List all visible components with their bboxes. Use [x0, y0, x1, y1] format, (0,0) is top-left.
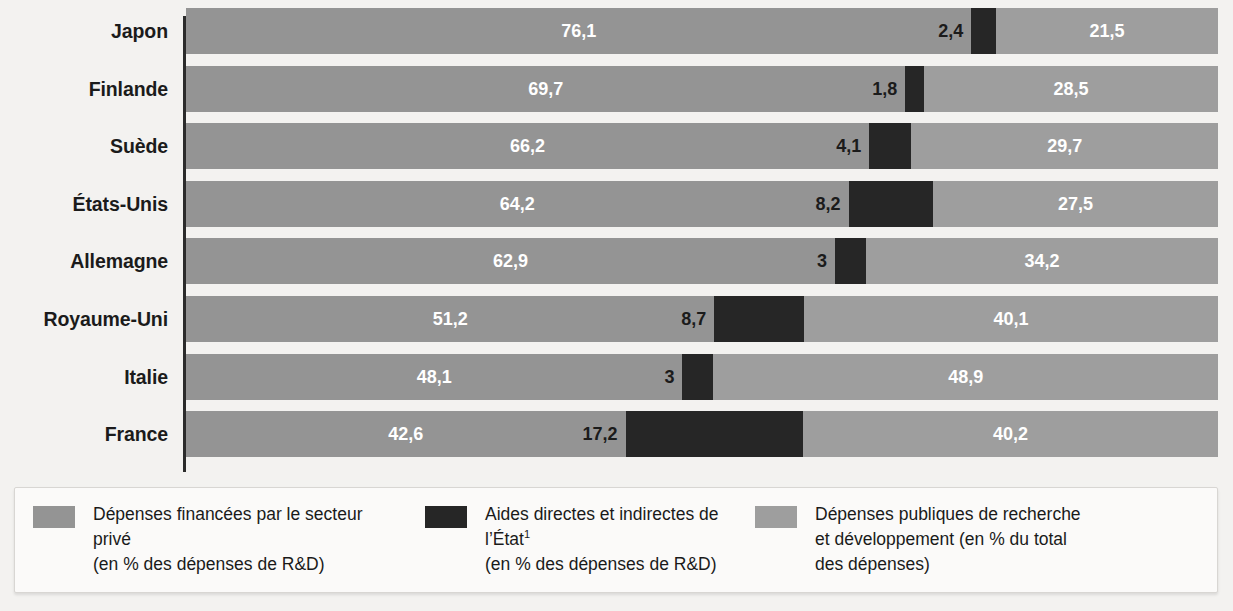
bar-row: Italie48,1348,9: [0, 354, 1233, 400]
bar-row: Royaume-Uni51,28,740,1: [0, 296, 1233, 342]
segment-state: [682, 354, 713, 400]
legend-label-state: Aides directes et indirectes de l’État1 …: [485, 502, 725, 577]
value-label-state: 3: [186, 238, 827, 284]
value-label-public: 40,1: [804, 296, 1218, 342]
stacked-bar: 62,9334,2: [186, 238, 1218, 284]
stacked-bar: 51,28,740,1: [186, 296, 1218, 342]
legend-label-state-line2: (en % des dépenses de R&D): [485, 554, 717, 574]
value-label-public: 28,5: [924, 66, 1218, 112]
segment-state: [626, 411, 804, 457]
segment-state: [971, 8, 996, 54]
value-label-state: 17,2: [186, 411, 618, 457]
chart-container: Japon76,12,421,5Finlande69,71,828,5Suède…: [0, 0, 1233, 611]
bar-row: Japon76,12,421,5: [0, 8, 1233, 54]
legend-label-public-line1: Dépenses publiques de recherche: [815, 504, 1081, 524]
legend-swatch-private-icon: [33, 506, 75, 528]
stacked-bar: 48,1348,9: [186, 354, 1218, 400]
stacked-bar: 42,617,240,2: [186, 411, 1218, 457]
bar-row: Suède66,24,129,7: [0, 123, 1233, 169]
segment-state: [849, 181, 934, 227]
segment-state: [714, 296, 804, 342]
legend-label-public-line3: des dépenses): [815, 554, 930, 574]
category-label-allemagne: Allemagne: [0, 238, 168, 284]
legend-label-private-line1: Dépenses financées par le secteur privé: [93, 504, 362, 549]
stacked-bar: 64,28,227,5: [186, 181, 1218, 227]
value-label-state: 8,7: [186, 296, 706, 342]
category-label-finlande: Finlande: [0, 66, 168, 112]
value-label-public: 40,2: [803, 411, 1218, 457]
bar-row: Finlande69,71,828,5: [0, 66, 1233, 112]
stacked-bar: 69,71,828,5: [186, 66, 1218, 112]
category-label-royaume-uni: Royaume-Uni: [0, 296, 168, 342]
legend-label-state-line1: Aides directes et indirectes de l’État: [485, 504, 718, 549]
legend-swatch-public-icon: [755, 506, 797, 528]
legend-swatch-state-icon: [425, 506, 467, 528]
value-label-public: 29,7: [911, 123, 1218, 169]
category-label-japon: Japon: [0, 8, 168, 54]
category-label-italie: Italie: [0, 354, 168, 400]
value-label-public: 21,5: [996, 8, 1218, 54]
legend-label-private: Dépenses financées par le secteur privé …: [93, 502, 393, 577]
value-label-public: 48,9: [713, 354, 1218, 400]
value-label-state: 2,4: [186, 8, 963, 54]
value-label-state: 3: [186, 354, 674, 400]
bar-row: États-Unis64,28,227,5: [0, 181, 1233, 227]
chart-legend: Dépenses financées par le secteur privé …: [14, 487, 1218, 593]
segment-state: [835, 238, 866, 284]
bar-row: France42,617,240,2: [0, 411, 1233, 457]
legend-label-public: Dépenses publiques de recherche et dével…: [815, 502, 1081, 577]
value-label-public: 34,2: [866, 238, 1218, 284]
legend-footnote-marker: 1: [524, 528, 530, 540]
segment-state: [905, 66, 924, 112]
category-label-france: France: [0, 411, 168, 457]
legend-label-public-line2: et développement (en % du total: [815, 529, 1067, 549]
category-label--tats-unis: États-Unis: [0, 181, 168, 227]
stacked-bar: 76,12,421,5: [186, 8, 1218, 54]
segment-state: [869, 123, 911, 169]
plot-area: Japon76,12,421,5Finlande69,71,828,5Suède…: [0, 8, 1233, 476]
value-label-state: 4,1: [186, 123, 861, 169]
value-label-state: 1,8: [186, 66, 897, 112]
bar-rows: Japon76,12,421,5Finlande69,71,828,5Suède…: [0, 8, 1233, 476]
category-label-su-de: Suède: [0, 123, 168, 169]
legend-label-private-line2: (en % des dépenses de R&D): [93, 554, 325, 574]
value-label-public: 27,5: [933, 181, 1218, 227]
value-label-state: 8,2: [186, 181, 841, 227]
bar-row: Allemagne62,9334,2: [0, 238, 1233, 284]
stacked-bar: 66,24,129,7: [186, 123, 1218, 169]
